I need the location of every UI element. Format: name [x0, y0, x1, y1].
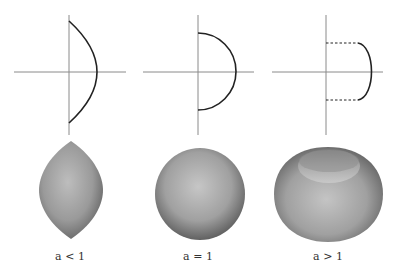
surface-lemon — [39, 141, 103, 239]
figure-canvas — [0, 0, 398, 278]
profile-plot-a-less-1 — [14, 15, 126, 135]
surface-sphere — [155, 148, 245, 240]
surface-apple — [274, 147, 383, 242]
profile-plot-a-equals-1 — [143, 15, 254, 135]
label-a-equals-1: a = 1 — [168, 250, 228, 263]
profile-plot-a-greater-1 — [272, 15, 383, 135]
label-a-greater-1: a > 1 — [298, 250, 358, 263]
label-a-less-1: a < 1 — [40, 250, 100, 263]
